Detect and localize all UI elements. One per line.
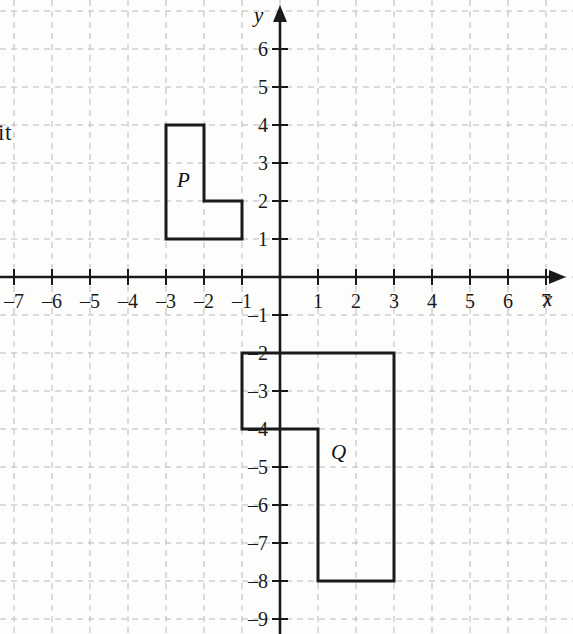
y-axis-arrowhead (273, 5, 287, 22)
y-tick-label: –6 (238, 495, 268, 515)
y-tick-label: 5 (238, 77, 268, 97)
x-tick-label: –4 (113, 291, 143, 311)
y-tick-label: –3 (238, 381, 268, 401)
y-tick-label: –1 (238, 305, 268, 325)
shape-label-p: P (177, 168, 190, 193)
x-axis-arrowhead (549, 270, 566, 284)
x-tick-label: –5 (75, 291, 105, 311)
coordinate-grid-figure: it –7–6–5–4–3–2–11234567654321–1–2–3–4–5… (0, 0, 573, 634)
y-tick-label: –4 (238, 419, 268, 439)
x-tick-label: 2 (341, 291, 371, 311)
y-axis-label: y (254, 3, 263, 28)
y-tick-label: 3 (238, 153, 268, 173)
y-tick-label: 1 (238, 229, 268, 249)
y-tick-label: –7 (238, 533, 268, 553)
y-tick-label: 4 (238, 115, 268, 135)
x-tick-label: –3 (151, 291, 181, 311)
plot-canvas (0, 0, 573, 634)
x-axis-label: x (543, 287, 552, 312)
y-tick-label: 6 (238, 39, 268, 59)
y-tick-label: –2 (238, 343, 268, 363)
x-tick-label: –7 (0, 291, 29, 311)
x-tick-label: –2 (189, 291, 219, 311)
shape-label-q: Q (331, 440, 346, 465)
x-tick-label: 5 (455, 291, 485, 311)
y-tick-label: –8 (238, 571, 268, 591)
x-tick-label: 4 (417, 291, 447, 311)
x-tick-label: 6 (493, 291, 523, 311)
x-tick-label: 1 (303, 291, 333, 311)
y-tick-label: –9 (238, 609, 268, 629)
x-tick-label: –6 (37, 291, 67, 311)
y-tick-label: –5 (238, 457, 268, 477)
gridlines-group (0, 0, 573, 634)
axes-group (0, 5, 566, 634)
y-tick-label: 2 (238, 191, 268, 211)
x-tick-label: 3 (379, 291, 409, 311)
